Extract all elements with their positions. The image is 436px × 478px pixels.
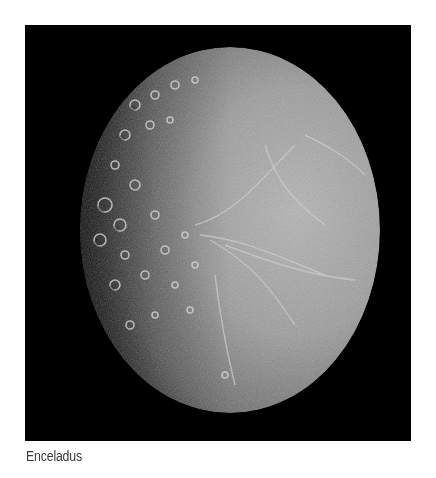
moon-photo: [25, 25, 411, 441]
image-caption: Enceladus: [26, 448, 82, 464]
enceladus-image: [25, 25, 411, 441]
